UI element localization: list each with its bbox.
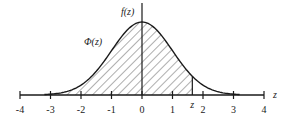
- tick-label: -1: [107, 104, 115, 115]
- tick-label: 3: [231, 104, 236, 115]
- axis-label-z: z: [272, 89, 277, 100]
- area-label-phi: Φ(z): [84, 36, 103, 48]
- axis-tick-labels: -4-3-2-101234: [16, 104, 267, 115]
- tick-label: 1: [170, 104, 175, 115]
- normal-distribution-diagram: -4-3-2-101234 f(z) Φ(z) z z: [0, 0, 289, 122]
- tick-label: 4: [262, 104, 267, 115]
- z-marker-label: z: [189, 99, 194, 110]
- tick-label: -4: [16, 104, 24, 115]
- cumulative-area-phi: [51, 22, 193, 95]
- tick-label: -2: [77, 104, 85, 115]
- tick-label: 0: [140, 104, 145, 115]
- tick-label: -3: [46, 104, 54, 115]
- tick-label: 2: [201, 104, 206, 115]
- curve-label-fz: f(z): [121, 6, 135, 18]
